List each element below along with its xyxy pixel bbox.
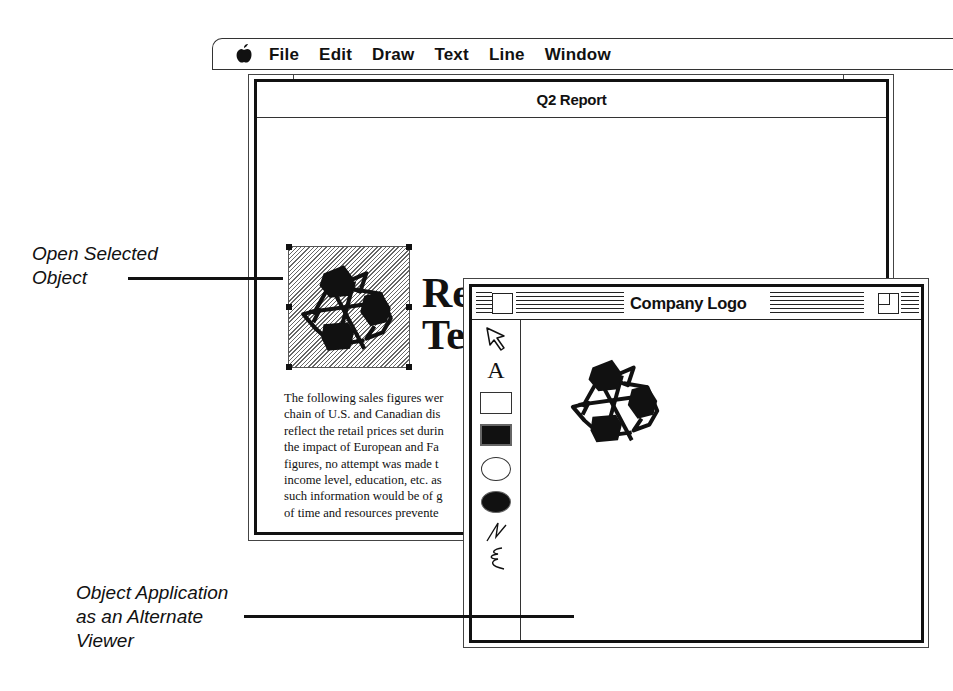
selection-handle[interactable] (286, 304, 292, 310)
callout-alternate-viewer: Object Application as an Alternate Viewe… (76, 581, 228, 653)
tool-palette: A (472, 320, 521, 640)
logo-window-frame: Company Logo A (469, 284, 924, 643)
menu-file[interactable]: File (269, 45, 299, 65)
menu-window[interactable]: Window (545, 45, 611, 65)
text-tool[interactable]: A (480, 356, 512, 384)
callout-leader-line (244, 615, 574, 618)
title-bar-stripes (476, 292, 492, 314)
selection-handle[interactable] (406, 364, 412, 370)
menu-draw[interactable]: Draw (372, 45, 414, 65)
zigzag-line-icon (484, 520, 508, 544)
menu-line[interactable]: Line (489, 45, 525, 65)
close-box-icon[interactable] (492, 293, 513, 314)
arrow-pointer-icon (484, 326, 508, 352)
selection-handle[interactable] (286, 244, 292, 250)
title-bar-stripes (901, 292, 919, 314)
recycle-icon[interactable] (563, 346, 671, 454)
report-title-bar[interactable]: Q2 Report (257, 82, 886, 118)
recycle-icon (293, 251, 405, 363)
callout-leader-line (128, 277, 283, 280)
embedded-logo-object-selected[interactable] (288, 246, 410, 368)
title-bar-stripes (770, 292, 864, 314)
menu-text[interactable]: Text (434, 45, 469, 65)
report-window-title: Q2 Report (537, 91, 607, 108)
callout-line: Open Selected (32, 242, 158, 266)
drawing-canvas[interactable] (521, 320, 921, 640)
rectangle-tool[interactable] (480, 389, 512, 417)
oval-outline-icon (481, 457, 511, 481)
selection-handle[interactable] (406, 244, 412, 250)
polyline-tool[interactable] (480, 518, 512, 546)
apple-icon[interactable] (233, 43, 255, 65)
selection-handle[interactable] (406, 304, 412, 310)
rectangle-filled-icon (480, 424, 512, 446)
letter-a-icon: A (487, 357, 504, 384)
callout-line: Viewer (76, 629, 228, 653)
logo-title-bar[interactable]: Company Logo (472, 287, 921, 320)
filled-oval-tool[interactable] (480, 488, 512, 516)
freehand-scribble-icon (484, 545, 508, 571)
filled-rectangle-tool[interactable] (480, 421, 512, 449)
selection-handle[interactable] (286, 364, 292, 370)
menu-bar: File Edit Draw Text Line Window (212, 38, 953, 70)
callout-line: Object Application (76, 581, 228, 605)
menu-edit[interactable]: Edit (319, 45, 352, 65)
rectangle-outline-icon (480, 392, 512, 414)
callout-line: as an Alternate (76, 605, 228, 629)
zoom-box-icon[interactable] (878, 293, 899, 314)
title-bar-stripes (516, 292, 628, 314)
oval-tool[interactable] (480, 455, 512, 483)
arrow-tool[interactable] (480, 325, 512, 353)
callout-open-selected-object: Open Selected Object (32, 242, 158, 290)
company-logo-window: Company Logo A (463, 278, 929, 648)
logo-window-title: Company Logo (624, 290, 752, 316)
freehand-tool[interactable] (480, 544, 512, 572)
oval-filled-icon (481, 491, 511, 513)
